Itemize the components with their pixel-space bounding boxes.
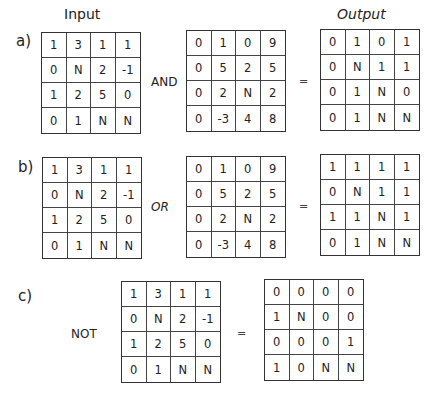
- grid-cell: -1: [196, 307, 221, 332]
- grid-cell: 1: [395, 180, 420, 205]
- panel-c-output-grid: 00001N00000110NN: [264, 279, 364, 381]
- grid-cell: 1: [370, 180, 395, 205]
- grid-cell: 1: [171, 282, 196, 307]
- grid-cell: 5: [212, 56, 237, 81]
- grid-cell: 4: [236, 232, 261, 257]
- grid-cell: N: [370, 205, 395, 230]
- panel-c-label: c): [18, 287, 32, 305]
- grid-cell: 0: [265, 280, 290, 305]
- grid-cell: 1: [395, 205, 420, 230]
- grid-cell: 1: [67, 108, 92, 133]
- panel-c-equals: =: [237, 327, 246, 340]
- panel-c-input-grid: 13110N2-1125001NN: [121, 281, 221, 383]
- grid-cell: 2: [91, 58, 116, 83]
- grid-cell: 8: [261, 232, 286, 257]
- grid-cell: 1: [43, 158, 68, 183]
- grid-cell: 5: [92, 208, 117, 233]
- grid-cell: N: [370, 105, 395, 130]
- grid-cell: N: [395, 230, 420, 255]
- grid-cell: 2: [68, 208, 93, 233]
- grid-cell: 1: [370, 55, 395, 80]
- grid-cell: N: [171, 357, 196, 382]
- grid-cell: 1: [395, 155, 420, 180]
- grid-cell: 0: [43, 233, 68, 258]
- panel-b-equals: =: [299, 200, 308, 213]
- grid-cell: -3: [212, 106, 237, 131]
- grid-cell: 2: [147, 332, 172, 357]
- grid-cell: 0: [187, 232, 212, 257]
- grid-cell: 1: [265, 355, 290, 380]
- grid-cell: N: [370, 80, 395, 105]
- grid-cell: 0: [290, 330, 315, 355]
- grid-cell: N: [346, 180, 371, 205]
- grid-cell: 0: [187, 81, 212, 106]
- grid-cell: 0: [122, 357, 147, 382]
- grid-cell: N: [117, 233, 142, 258]
- grid-cell: 9: [261, 157, 286, 182]
- input-header: Input: [64, 6, 100, 22]
- grid-cell: 2: [261, 81, 286, 106]
- panel-b-operator: OR: [151, 200, 169, 214]
- grid-cell: 0: [314, 305, 339, 330]
- panel-b-output-grid: 11110N1111N101NN: [320, 154, 420, 256]
- grid-cell: N: [346, 55, 371, 80]
- grid-cell: -1: [117, 183, 142, 208]
- grid-cell: N: [314, 355, 339, 380]
- grid-cell: 0: [339, 280, 364, 305]
- grid-cell: 0: [42, 108, 67, 133]
- grid-cell: 1: [346, 30, 371, 55]
- panel-b-input-grid: 13110N2-1125001NN: [42, 157, 142, 259]
- grid-cell: N: [290, 305, 315, 330]
- grid-cell: 5: [171, 332, 196, 357]
- grid-cell: 0: [116, 83, 141, 108]
- panel-b-label: b): [18, 158, 33, 176]
- grid-cell: 0: [187, 182, 212, 207]
- grid-cell: 1: [43, 208, 68, 233]
- grid-cell: 0: [187, 157, 212, 182]
- grid-cell: 1: [339, 330, 364, 355]
- grid-cell: 1: [370, 155, 395, 180]
- grid-cell: 0: [187, 106, 212, 131]
- grid-cell: 0: [236, 31, 261, 56]
- grid-cell: 1: [346, 230, 371, 255]
- grid-cell: 1: [147, 357, 172, 382]
- grid-cell: N: [67, 58, 92, 83]
- grid-cell: 0: [370, 30, 395, 55]
- grid-cell: 1: [196, 282, 221, 307]
- grid-cell: N: [395, 105, 420, 130]
- grid-cell: 8: [261, 106, 286, 131]
- grid-cell: 0: [122, 307, 147, 332]
- grid-cell: 0: [321, 55, 346, 80]
- panel-b-operand-grid: 0109052502N20-348: [186, 156, 286, 258]
- grid-cell: 0: [43, 183, 68, 208]
- grid-cell: N: [196, 357, 221, 382]
- grid-cell: 3: [68, 158, 93, 183]
- grid-cell: 5: [261, 56, 286, 81]
- grid-cell: 5: [261, 182, 286, 207]
- grid-cell: 0: [321, 105, 346, 130]
- grid-cell: 1: [321, 155, 346, 180]
- grid-cell: 0: [187, 56, 212, 81]
- panel-c-operator: NOT: [71, 327, 97, 341]
- grid-cell: 2: [171, 307, 196, 332]
- grid-cell: 0: [314, 330, 339, 355]
- grid-cell: 1: [92, 158, 117, 183]
- grid-cell: N: [92, 233, 117, 258]
- output-header: Output: [337, 6, 386, 22]
- grid-cell: -3: [212, 232, 237, 257]
- grid-cell: 1: [91, 33, 116, 58]
- grid-cell: 2: [261, 207, 286, 232]
- grid-cell: 1: [346, 80, 371, 105]
- grid-cell: 0: [196, 332, 221, 357]
- grid-cell: 2: [236, 56, 261, 81]
- grid-cell: N: [91, 108, 116, 133]
- grid-cell: 1: [395, 30, 420, 55]
- grid-cell: 0: [42, 58, 67, 83]
- grid-cell: 0: [265, 330, 290, 355]
- grid-cell: 2: [212, 207, 237, 232]
- panel-a-equals: =: [299, 75, 308, 88]
- grid-cell: N: [116, 108, 141, 133]
- grid-cell: 5: [91, 83, 116, 108]
- grid-cell: N: [339, 355, 364, 380]
- grid-cell: 9: [261, 31, 286, 56]
